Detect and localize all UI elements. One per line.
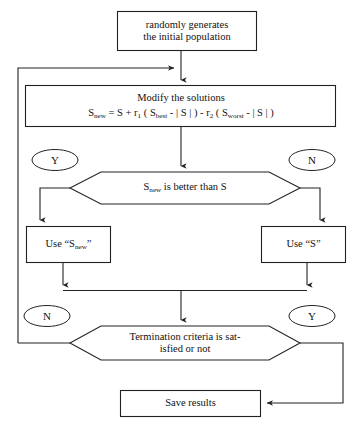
edge-no-to-use-s: [300, 188, 320, 220]
decision-better-shape: [70, 172, 300, 204]
save-results-box-shape: [121, 391, 261, 417]
use-snew-box-shape: [27, 227, 111, 263]
termination-yes-ellipse: [289, 306, 335, 327]
decision-termination-shape: [70, 326, 300, 360]
termination-no-ellipse: [24, 306, 70, 327]
edge-yes-to-use-snew: [40, 188, 70, 220]
start-box-shape: [118, 12, 257, 51]
better-no-ellipse: [289, 150, 335, 171]
flowchart-canvas: randomly generates the initial populatio…: [0, 0, 361, 437]
modify-box-shape: [26, 86, 336, 127]
better-yes-ellipse: [32, 150, 78, 171]
flowchart-graphics: [0, 0, 361, 437]
use-s-box-shape: [262, 227, 346, 263]
